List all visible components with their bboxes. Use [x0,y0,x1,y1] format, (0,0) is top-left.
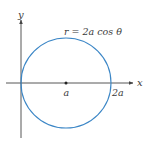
y-axis-label: y [17,9,24,20]
point-label-a: a [64,87,70,98]
x-axis-label: x [137,77,143,88]
point-label-2a: 2a [111,87,124,98]
equation-label: r = 2a cos θ [64,26,122,37]
center-point [65,82,68,85]
polar-circle-diagram: y x r = 2a cos θ a 2a [0,0,145,149]
